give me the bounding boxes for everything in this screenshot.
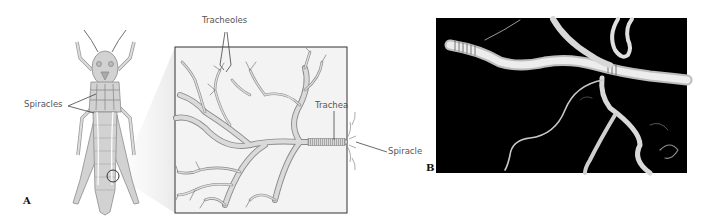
panel-a-illustration xyxy=(0,0,705,221)
spiracles-label: Spiracles xyxy=(24,99,63,109)
tracheoles-label: Tracheoles xyxy=(202,15,247,25)
spiracle-callout-line xyxy=(356,142,387,152)
tracheal-system-figure: Spiracles Tracheoles Trachea Spiracle A … xyxy=(0,0,705,221)
spiracle-label: Spiracle xyxy=(388,146,422,156)
panel-b-photograph xyxy=(436,18,687,173)
grasshopper-drawing xyxy=(73,30,139,215)
spiracle-opening xyxy=(347,112,356,170)
trachea-label: Trachea xyxy=(315,100,348,110)
panel-a-label: A xyxy=(23,195,31,206)
panel-b-label: B xyxy=(426,162,434,173)
